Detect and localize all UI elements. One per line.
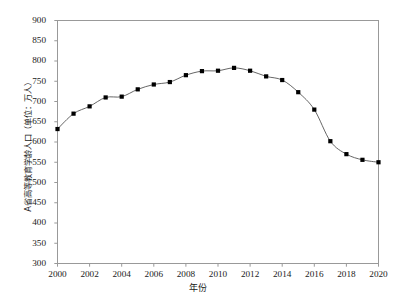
x-tick-label: 2012 (241, 270, 259, 279)
x-tick-label: 2010 (209, 270, 227, 279)
x-tick-label: 2004 (113, 270, 131, 279)
x-tick-label: 2006 (145, 270, 163, 279)
x-tick-label: 2014 (273, 270, 291, 279)
x-tick-label: 2000 (48, 270, 66, 279)
x-axis-tick-labels: 2000200220042006200820102012201420162018… (0, 0, 395, 302)
chart-figure: A省高等教育学龄人口（单位：万人） 3003504004505005506006… (0, 0, 395, 302)
x-tick-label: 2002 (80, 270, 98, 279)
x-tick-label: 2016 (305, 270, 323, 279)
x-tick-label: 2008 (177, 270, 195, 279)
x-tick-label: 2018 (337, 270, 355, 279)
x-tick-label: 2020 (369, 270, 387, 279)
x-axis-title: 年份 (0, 281, 395, 294)
